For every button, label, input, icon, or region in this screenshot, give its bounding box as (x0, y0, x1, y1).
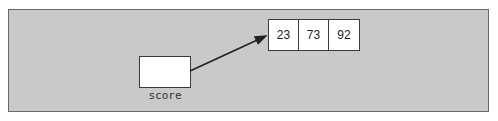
array-object: 23 73 92 (268, 19, 360, 51)
reference-arrow-icon (0, 0, 498, 121)
array-cell: 92 (329, 20, 359, 50)
array-cell: 23 (269, 20, 299, 50)
array-cell: 73 (299, 20, 329, 50)
